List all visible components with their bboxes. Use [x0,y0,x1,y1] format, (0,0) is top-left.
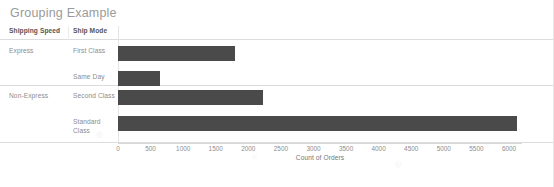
row-mode-label[interactable]: Same Day [73,73,117,82]
column-header-shipping-speed[interactable]: Shipping Speed [9,27,60,34]
axis-tick-label: 3500 [339,145,353,152]
table-row[interactable]: Non-Express Second Class [0,86,554,112]
axis-tick-label: 4000 [371,145,385,152]
table-header-row: Shipping Speed ↑ Ship Mode [0,26,554,40]
axis-tick-label: 3000 [306,145,320,152]
axis-tick-label: 1500 [209,145,223,152]
axis-tick-label: 1000 [176,145,190,152]
axis-title: Count of Orders [118,154,522,161]
table-row[interactable]: Same Day [0,69,554,85]
bar-first-class[interactable] [118,46,235,61]
bar-standard-class[interactable] [118,116,517,131]
table-row[interactable]: Express First Class [0,40,554,69]
axis-tick-label: 5000 [437,145,451,152]
axis-tick-label: 0 [116,145,120,152]
row-mode-label[interactable]: First Class [73,47,117,56]
grouped-bar-table: Shipping Speed ↑ Ship Mode Express First… [0,26,554,143]
row-group-label[interactable]: Non-Express [9,92,48,99]
axis-tick-label: 4500 [404,145,418,152]
column-header-ship-mode[interactable]: Ship Mode [73,27,107,34]
header-column-divider [68,26,69,40]
sort-ascending-icon[interactable]: ↑ [57,27,60,34]
x-axis: 0500100015002000250030003500400045005000… [0,143,554,187]
axis-tick-label: 2000 [241,145,255,152]
axis-tick-label: 500 [145,145,156,152]
row-group-label[interactable]: Express [9,47,34,54]
visualization-container: Grouping Example Shipping Speed ↑ Ship M… [0,0,554,187]
axis-tick-label: 6000 [502,145,516,152]
axis-line [118,143,522,144]
table-row[interactable]: Standard Class [0,112,554,142]
row-mode-label[interactable]: Second Class [73,92,117,101]
page-title: Grouping Example [10,6,117,20]
axis-tick-label: 5500 [469,145,483,152]
axis-tick-label: 2500 [274,145,288,152]
bar-second-class[interactable] [118,90,263,105]
row-mode-label[interactable]: Standard Class [73,118,117,135]
bar-same-day[interactable] [118,71,160,86]
